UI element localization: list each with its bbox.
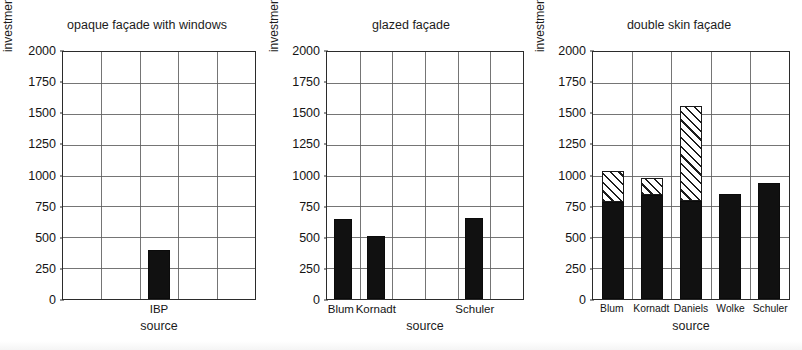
y-tick-label: 750 bbox=[299, 201, 320, 213]
y-tick-label: 1250 bbox=[558, 138, 586, 150]
panel-opaque-facade-with-windows: opaque façade with windows investment co… bbox=[0, 0, 268, 350]
bar-segment-solid bbox=[465, 218, 483, 299]
bar-segment-solid bbox=[367, 236, 385, 299]
category-slot bbox=[327, 52, 360, 299]
x-tick-label: Blum bbox=[326, 302, 356, 317]
y-axis-tick-labels: 200017501500125010007505002500 bbox=[18, 51, 60, 300]
bar[interactable] bbox=[367, 236, 385, 299]
x-axis-category-labels: BlumKornadtSchuler bbox=[326, 302, 524, 317]
bar-series bbox=[63, 52, 255, 299]
category-slot bbox=[63, 52, 101, 299]
y-tick-label: 0 bbox=[579, 294, 586, 306]
y-tick-label: 1250 bbox=[28, 138, 56, 150]
plot-area bbox=[326, 51, 524, 300]
bar[interactable] bbox=[148, 250, 170, 299]
x-axis-title: source bbox=[326, 319, 524, 335]
y-tick-label: 2000 bbox=[28, 45, 56, 57]
bar-segment-hatched bbox=[680, 106, 702, 201]
y-axis-tick-labels: 200017501500125010007505002500 bbox=[548, 51, 590, 300]
bar-segment-solid bbox=[680, 201, 702, 299]
bar[interactable] bbox=[465, 218, 483, 299]
panel-double-skin-facade: double skin façade investment costs [€/m… bbox=[534, 0, 802, 350]
y-axis-title: investment costs [€/m² façade area] bbox=[0, 0, 16, 82]
x-axis-category-labels: BlumKornadtDanielsWolkeSchuler bbox=[592, 302, 790, 317]
x-tick-label: Wolke bbox=[711, 302, 751, 317]
bar-segment-hatched bbox=[641, 178, 663, 195]
bar[interactable] bbox=[641, 178, 663, 299]
x-tick-label bbox=[426, 302, 456, 317]
bar-segment-solid bbox=[758, 183, 780, 299]
x-tick-label: Schuler bbox=[750, 302, 790, 317]
x-axis-title: source bbox=[62, 319, 256, 335]
x-tick-label bbox=[101, 302, 140, 317]
y-tick-label: 250 bbox=[299, 263, 320, 275]
category-slot bbox=[711, 52, 750, 299]
panel-title: glazed façade bbox=[268, 18, 534, 32]
category-slot bbox=[392, 52, 425, 299]
bar[interactable] bbox=[758, 183, 780, 299]
y-tick-label: 1000 bbox=[292, 170, 320, 182]
bar-segment-solid bbox=[148, 250, 170, 299]
bar-segment-solid bbox=[641, 195, 663, 299]
bar-series bbox=[593, 52, 789, 299]
x-tick-label: Daniels bbox=[671, 302, 711, 317]
y-tick-label: 1500 bbox=[558, 107, 586, 119]
x-tick-label: IBP bbox=[140, 302, 179, 317]
category-slot bbox=[490, 52, 523, 299]
x-tick-label bbox=[62, 302, 101, 317]
y-tick-label: 500 bbox=[565, 232, 586, 244]
x-tick-label: Kornadt bbox=[632, 302, 672, 317]
y-tick-label: 500 bbox=[299, 232, 320, 244]
y-tick-label: 1000 bbox=[558, 170, 586, 182]
category-slot bbox=[140, 52, 178, 299]
y-tick-label: 0 bbox=[49, 294, 56, 306]
y-tick-label: 250 bbox=[565, 263, 586, 275]
x-tick-label bbox=[217, 302, 256, 317]
bar-segment-solid bbox=[334, 219, 352, 299]
plot-area bbox=[62, 51, 256, 300]
x-tick-label: Schuler bbox=[455, 302, 494, 317]
y-tick-label: 2000 bbox=[558, 45, 586, 57]
y-tick-label: 750 bbox=[35, 201, 56, 213]
bar-segment-solid bbox=[602, 202, 624, 299]
y-tick-label: 1750 bbox=[558, 76, 586, 88]
category-slot bbox=[425, 52, 458, 299]
y-tick-label: 500 bbox=[35, 232, 56, 244]
category-slot bbox=[178, 52, 216, 299]
bar-segment-solid bbox=[719, 194, 741, 299]
y-tick-label: 1750 bbox=[292, 76, 320, 88]
y-tick-label: 1000 bbox=[28, 170, 56, 182]
bar-segment-hatched bbox=[602, 171, 624, 202]
bar-series bbox=[327, 52, 523, 299]
x-tick-label bbox=[494, 302, 524, 317]
category-slot bbox=[360, 52, 393, 299]
y-tick-label: 1250 bbox=[292, 138, 320, 150]
y-tick-label: 250 bbox=[35, 263, 56, 275]
y-tick-label: 2000 bbox=[292, 45, 320, 57]
category-slot bbox=[671, 52, 710, 299]
bar[interactable] bbox=[719, 194, 741, 299]
x-tick-label bbox=[396, 302, 426, 317]
category-slot bbox=[593, 52, 632, 299]
y-axis-title: investment costs [€/m² façade area] bbox=[532, 0, 548, 82]
x-tick-label: Blum bbox=[592, 302, 632, 317]
plot-area bbox=[592, 51, 790, 300]
panel-title: double skin façade bbox=[534, 18, 802, 32]
bar[interactable] bbox=[602, 171, 624, 299]
category-slot bbox=[101, 52, 139, 299]
bar[interactable] bbox=[334, 219, 352, 299]
y-tick-label: 1500 bbox=[292, 107, 320, 119]
bar[interactable] bbox=[680, 106, 702, 299]
x-tick-label bbox=[178, 302, 217, 317]
three-panel-bar-chart-figure: opaque façade with windows investment co… bbox=[0, 0, 802, 350]
y-tick-label: 1500 bbox=[28, 107, 56, 119]
y-tick-label: 1750 bbox=[28, 76, 56, 88]
y-tick-label: 0 bbox=[313, 294, 320, 306]
x-axis-category-labels: IBP bbox=[62, 302, 256, 317]
x-axis-title: source bbox=[592, 319, 790, 335]
y-tick-label: 750 bbox=[565, 201, 586, 213]
x-tick-label: Kornadt bbox=[356, 302, 396, 317]
category-slot bbox=[217, 52, 255, 299]
category-slot bbox=[458, 52, 491, 299]
category-slot bbox=[632, 52, 671, 299]
